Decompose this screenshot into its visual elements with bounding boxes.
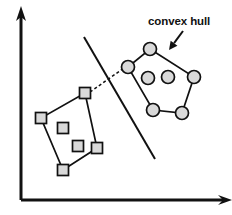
circle-cluster-hull-polygon (128, 49, 194, 113)
circle-cluster-hull-vertex (144, 43, 157, 56)
hull-edges-layer (41, 49, 194, 170)
square-cluster-hull-vertex (58, 165, 69, 176)
data-point-markers-layer (36, 43, 201, 176)
square-cluster-interior-point (73, 141, 84, 152)
convex-hull-label: convex hull (148, 16, 210, 28)
square-cluster-hull-vertex (80, 88, 91, 99)
circle-cluster-hull-vertex (122, 61, 135, 74)
circle-cluster-hull-vertex (176, 107, 189, 120)
square-cluster-hull-vertex (92, 143, 103, 154)
circle-cluster-interior-point (162, 71, 175, 84)
circle-cluster-hull-vertex (147, 104, 160, 117)
callout-arrow-shaft (174, 31, 183, 43)
callout-arrowhead-icon (169, 41, 177, 50)
callout-arrow-group (169, 31, 183, 50)
diagram-canvas (0, 0, 232, 215)
nearest-pair-connector (90, 68, 124, 92)
circle-cluster-interior-point (142, 72, 155, 85)
convex-hull-figure: convex hull (0, 0, 232, 215)
circle-cluster-hull-vertex (188, 71, 201, 84)
square-cluster-interior-point (58, 123, 69, 134)
square-cluster-hull-vertex (36, 113, 47, 124)
